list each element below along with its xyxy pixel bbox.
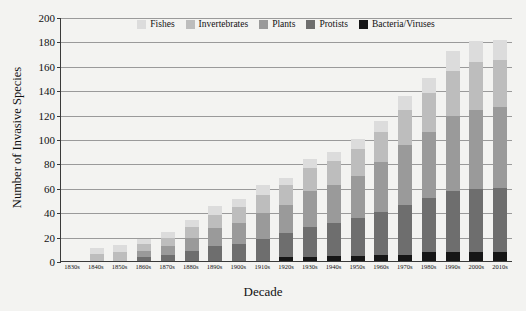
bar-segment[interactable] [327, 185, 341, 223]
bar-segment[interactable] [161, 238, 175, 247]
bar-segment[interactable] [185, 238, 199, 251]
bar-segment[interactable] [469, 41, 483, 62]
bar-segment[interactable] [493, 40, 507, 60]
bar-segment[interactable] [469, 252, 483, 261]
bar-segment[interactable] [446, 116, 460, 192]
y-axis-tick-label: 200 [39, 12, 56, 24]
bar-segment[interactable] [398, 96, 412, 109]
bar-segment[interactable] [493, 252, 507, 261]
bar-column[interactable] [90, 18, 104, 261]
bar-segment[interactable] [161, 255, 175, 261]
bar-column[interactable] [113, 18, 127, 261]
bar-segment[interactable] [422, 78, 436, 93]
bar-segment[interactable] [113, 252, 127, 261]
bar-segment[interactable] [351, 218, 365, 256]
bar-segment[interactable] [446, 252, 460, 261]
bar-segment[interactable] [256, 195, 270, 213]
bar-segment[interactable] [351, 139, 365, 149]
bar-segment[interactable] [398, 255, 412, 261]
bar-segment[interactable] [90, 254, 104, 261]
bar-column[interactable] [469, 18, 483, 261]
bar-segment[interactable] [493, 107, 507, 188]
bar-segment[interactable] [303, 257, 317, 261]
bar-column[interactable] [137, 18, 151, 261]
bar-segment[interactable] [398, 110, 412, 145]
bar-segment[interactable] [303, 191, 317, 226]
bar-segment[interactable] [303, 159, 317, 169]
bar-segment[interactable] [422, 132, 436, 198]
bar-segment[interactable] [137, 257, 151, 261]
bar-segment[interactable] [351, 149, 365, 176]
bar-segment[interactable] [279, 178, 293, 185]
bar-segment[interactable] [232, 207, 246, 223]
bar-column[interactable] [493, 18, 507, 261]
bar-segment[interactable] [256, 213, 270, 239]
bar-segment[interactable] [256, 185, 270, 195]
bar-column[interactable] [374, 18, 388, 261]
bar-column[interactable] [351, 18, 365, 261]
bar-column[interactable] [256, 18, 270, 261]
bar-segment[interactable] [374, 121, 388, 132]
bar-segment[interactable] [374, 212, 388, 255]
bar-segment[interactable] [232, 199, 246, 208]
bar-segment[interactable] [185, 251, 199, 261]
bar-segment[interactable] [327, 152, 341, 161]
bar-segment[interactable] [422, 198, 436, 253]
bar-segment[interactable] [279, 257, 293, 261]
bar-segment[interactable] [374, 255, 388, 261]
bar-segment[interactable] [303, 168, 317, 191]
bar-column[interactable] [446, 18, 460, 261]
bar-column[interactable] [208, 18, 222, 261]
bar-segment[interactable] [446, 191, 460, 252]
bar-segment[interactable] [303, 227, 317, 258]
bar-column[interactable] [232, 18, 246, 261]
bar-segment[interactable] [327, 256, 341, 261]
bar-segment[interactable] [469, 189, 483, 252]
bar-column[interactable] [327, 18, 341, 261]
bar-segment[interactable] [422, 252, 436, 261]
bar-segment[interactable] [327, 161, 341, 185]
bar-segment[interactable] [279, 185, 293, 205]
bar-segment[interactable] [327, 223, 341, 256]
bar-segment[interactable] [185, 227, 199, 238]
bar-segment[interactable] [446, 71, 460, 116]
bar-segment[interactable] [208, 228, 222, 246]
bar-segment[interactable] [208, 215, 222, 228]
bar-segment[interactable] [232, 223, 246, 244]
bar-segment[interactable] [279, 233, 293, 257]
bar-segment[interactable] [446, 51, 460, 71]
bar-segment[interactable] [208, 206, 222, 215]
bar-segment[interactable] [469, 110, 483, 189]
bar-column[interactable] [185, 18, 199, 261]
bar-segment[interactable] [256, 239, 270, 261]
bar-segment[interactable] [137, 244, 151, 251]
bar-column[interactable] [303, 18, 317, 261]
bar-segment[interactable] [351, 256, 365, 261]
bar-segment[interactable] [161, 246, 175, 255]
bar-segment[interactable] [185, 220, 199, 227]
bar-segment[interactable] [279, 205, 293, 233]
legend-item[interactable]: Plants [259, 19, 295, 29]
bar-column[interactable] [161, 18, 175, 261]
bar-segment[interactable] [351, 176, 365, 219]
bar-segment[interactable] [422, 93, 436, 132]
legend-item[interactable]: Bacteria/Viruses [359, 19, 435, 29]
bar-segment[interactable] [232, 244, 246, 261]
bar-segment[interactable] [398, 205, 412, 255]
legend-item[interactable]: Protists [306, 19, 348, 29]
bar-column[interactable] [279, 18, 293, 261]
bar-column[interactable] [422, 18, 436, 261]
bar-segment[interactable] [208, 246, 222, 261]
bar-segment[interactable] [398, 145, 412, 205]
bar-segment[interactable] [374, 162, 388, 212]
bar-segment[interactable] [469, 62, 483, 110]
bar-segment[interactable] [493, 60, 507, 108]
bar-segment[interactable] [493, 188, 507, 253]
bar-column[interactable] [398, 18, 412, 261]
bar-segment[interactable] [113, 245, 127, 252]
legend-item[interactable]: Invertebrates [186, 19, 249, 29]
bar-column[interactable] [66, 18, 80, 261]
bar-segment[interactable] [374, 132, 388, 163]
legend-item[interactable]: Fishes [137, 19, 174, 29]
y-axis-tick-label: 180 [39, 36, 56, 48]
